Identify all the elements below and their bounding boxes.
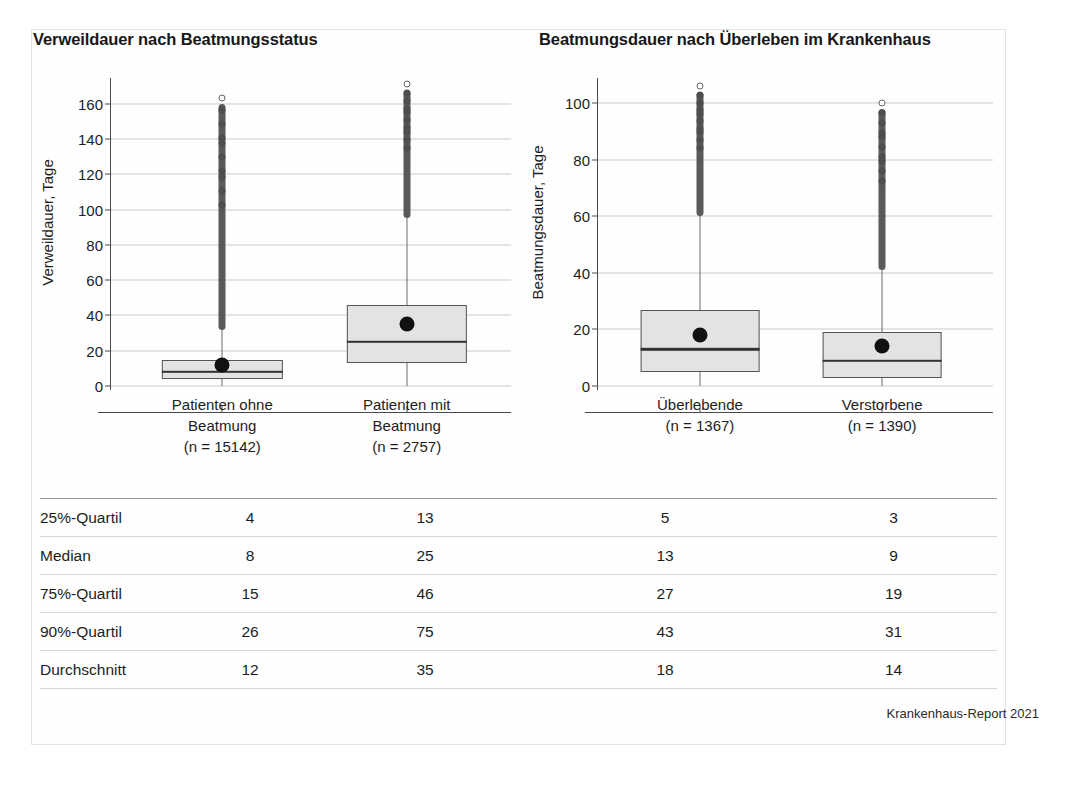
y-tick-label: 100 bbox=[78, 201, 103, 218]
table-cell-label: 90%-Quartil bbox=[40, 613, 190, 651]
y-axis-title-right-text: Beatmungsdauer, Tage bbox=[529, 145, 546, 299]
table-cell-v2: 25 bbox=[310, 537, 540, 575]
y-axis-title-left: Verweildauer, Tage bbox=[35, 72, 59, 372]
table-row: 25%-Quartil41353 bbox=[40, 499, 997, 537]
outlier-point bbox=[403, 144, 410, 151]
table-cell-v2: 46 bbox=[310, 575, 540, 613]
outlier-point bbox=[879, 154, 886, 161]
plot-area-verweildauer: 020406080100120140160 bbox=[110, 86, 511, 386]
table-cell-v4: 3 bbox=[790, 499, 997, 537]
outlier-point bbox=[219, 120, 226, 127]
table-cell-label: Durchschnitt bbox=[40, 651, 190, 689]
y-tick-label: 140 bbox=[78, 130, 103, 147]
table-cell-v1: 26 bbox=[190, 613, 310, 651]
y-tick-label: 0 bbox=[582, 378, 590, 395]
x-category-line: Verstorbene bbox=[842, 394, 923, 415]
x-category-line: (n = 15142) bbox=[172, 436, 273, 457]
table-cell-v2: 13 bbox=[310, 499, 540, 537]
y-tick-label: 40 bbox=[573, 264, 590, 281]
y-tick-label: 20 bbox=[86, 342, 103, 359]
median-line bbox=[823, 359, 942, 361]
outlier-point bbox=[403, 89, 410, 96]
gridline bbox=[110, 244, 511, 245]
mean-marker bbox=[399, 317, 414, 332]
gridline bbox=[110, 138, 511, 139]
y-tick-label: 40 bbox=[86, 307, 103, 324]
y-tick-label: 0 bbox=[95, 378, 103, 395]
table-cell-v2: 75 bbox=[310, 613, 540, 651]
gridline bbox=[110, 103, 511, 104]
outlier-point bbox=[696, 126, 703, 133]
box-rect bbox=[347, 305, 467, 363]
median-line bbox=[347, 341, 467, 343]
outlier-point bbox=[879, 168, 886, 175]
gridline bbox=[597, 386, 993, 387]
outlier-point bbox=[879, 129, 886, 136]
outlier-point bbox=[403, 136, 410, 143]
y-tick-label: 20 bbox=[573, 321, 590, 338]
outlier-point bbox=[696, 91, 703, 98]
y-tick-label: 60 bbox=[573, 208, 590, 225]
statistics-table: 25%-Quartil41353Median82513975%-Quartil1… bbox=[40, 498, 997, 689]
mean-marker bbox=[875, 339, 890, 354]
chart-title-verweildauer: Verweildauer nach Beatmungsstatus bbox=[33, 30, 318, 49]
outlier-point bbox=[696, 136, 703, 143]
table-cell-v3: 27 bbox=[540, 575, 790, 613]
median-line bbox=[641, 348, 760, 350]
y-tick-label: 80 bbox=[573, 151, 590, 168]
x-category-label-1: Verstorbene(n = 1390) bbox=[842, 394, 923, 436]
table-row: Durchschnitt12351814 bbox=[40, 651, 997, 689]
x-category-line: Beatmung bbox=[363, 415, 451, 436]
table-cell-v4: 9 bbox=[790, 537, 997, 575]
table-cell-v1: 15 bbox=[190, 575, 310, 613]
table-cell-v3: 18 bbox=[540, 651, 790, 689]
gridline bbox=[110, 280, 511, 281]
table-cell-label: Median bbox=[40, 537, 190, 575]
max-outlier-point bbox=[403, 80, 410, 87]
outlier-point bbox=[696, 118, 703, 125]
table-row: 75%-Quartil15462719 bbox=[40, 575, 997, 613]
gridline bbox=[110, 174, 511, 175]
table-cell-v4: 19 bbox=[790, 575, 997, 613]
plot-area-beatmungsdauer: 020406080100 bbox=[597, 86, 993, 386]
table-row: 90%-Quartil26754331 bbox=[40, 613, 997, 651]
y-axis-title-right: Beatmungsdauer, Tage bbox=[525, 72, 549, 372]
y-tick-label: 60 bbox=[86, 272, 103, 289]
outlier-point bbox=[219, 154, 226, 161]
table-cell-v3: 13 bbox=[540, 537, 790, 575]
gridline bbox=[597, 159, 993, 160]
outlier-point bbox=[696, 107, 703, 114]
table-cell-label: 75%-Quartil bbox=[40, 575, 190, 613]
table-cell-v3: 43 bbox=[540, 613, 790, 651]
mean-marker bbox=[215, 357, 230, 372]
outlier-point bbox=[879, 119, 886, 126]
outlier-point bbox=[879, 144, 886, 151]
x-category-line: Patienten ohne bbox=[172, 394, 273, 415]
table-cell-v4: 14 bbox=[790, 651, 997, 689]
chart-panel-beatmungsdauer: Beatmungsdauer, Tage 020406080100 Überle… bbox=[525, 72, 1005, 487]
outlier-point bbox=[879, 178, 886, 185]
y-tick-label: 120 bbox=[78, 166, 103, 183]
table-cell-v3: 5 bbox=[540, 499, 790, 537]
max-outlier-point bbox=[879, 99, 886, 106]
outlier-point bbox=[219, 188, 226, 195]
outlier-point bbox=[403, 105, 410, 112]
outlier-point bbox=[403, 117, 410, 124]
gridline bbox=[110, 386, 511, 387]
x-category-line: (n = 1367) bbox=[657, 415, 743, 436]
table-cell-v1: 4 bbox=[190, 499, 310, 537]
x-category-line: (n = 2757) bbox=[363, 436, 451, 457]
outlier-point bbox=[219, 168, 226, 175]
source-note: Krankenhaus-Report 2021 bbox=[887, 706, 1040, 721]
outlier-point bbox=[219, 202, 226, 209]
gridline bbox=[110, 209, 511, 210]
x-category-label-0: Patienten ohneBeatmung(n = 15142) bbox=[172, 394, 273, 457]
outlier-point bbox=[879, 109, 886, 116]
x-category-label-1: Patienten mitBeatmung(n = 2757) bbox=[363, 394, 451, 457]
outlier-point bbox=[403, 97, 410, 104]
outlier-point bbox=[219, 134, 226, 141]
y-tick-label: 160 bbox=[78, 95, 103, 112]
table-cell-v4: 31 bbox=[790, 613, 997, 651]
chart-panel-verweildauer: Verweildauer, Tage 020406080100120140160… bbox=[33, 72, 523, 487]
table-cell-label: 25%-Quartil bbox=[40, 499, 190, 537]
